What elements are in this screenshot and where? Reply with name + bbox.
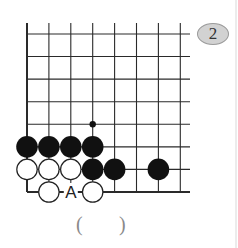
white-stone[interactable] bbox=[39, 182, 59, 202]
white-stone[interactable] bbox=[17, 159, 37, 179]
board-labels: A bbox=[64, 183, 78, 202]
problem-number: 2 bbox=[209, 24, 218, 43]
answer-blank[interactable] bbox=[86, 212, 120, 238]
point-label-a[interactable]: A bbox=[65, 183, 77, 202]
problem-number-badge: 2 bbox=[197, 23, 229, 45]
black-stone[interactable] bbox=[60, 136, 82, 158]
white-stone[interactable] bbox=[83, 182, 103, 202]
board-markers bbox=[90, 121, 96, 127]
black-stone[interactable] bbox=[82, 159, 104, 181]
black-stone[interactable] bbox=[16, 136, 38, 158]
answer-close-paren: ) bbox=[119, 213, 126, 236]
black-stone[interactable] bbox=[38, 136, 60, 158]
star-point-marker bbox=[90, 121, 96, 127]
black-stone[interactable] bbox=[82, 136, 104, 158]
answer-open-paren: ( bbox=[76, 213, 83, 236]
white-stone[interactable] bbox=[61, 159, 81, 179]
black-stone[interactable] bbox=[148, 159, 170, 181]
black-stone[interactable] bbox=[104, 159, 126, 181]
white-stone[interactable] bbox=[39, 159, 59, 179]
